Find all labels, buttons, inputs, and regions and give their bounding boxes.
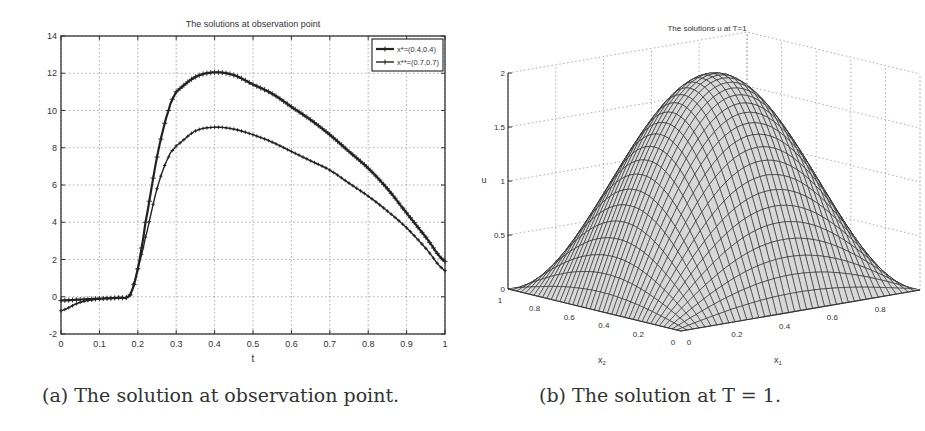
x2-tick-label: 0.2 — [633, 330, 645, 339]
x-tick-label: 0.9 — [400, 339, 413, 349]
legend-entry: x*=(0.4,0.4) — [397, 45, 436, 54]
z-tick-label: 1 — [501, 177, 506, 186]
x2-axis-label: x2 — [598, 355, 607, 366]
y-tick-label: 6 — [52, 180, 57, 190]
x-axis-label: t — [252, 353, 255, 364]
x1-tick-label: 0 — [687, 338, 692, 347]
caption-a: (a) The solution at observation point. — [42, 384, 399, 406]
x2-tick-label: 0 — [671, 338, 676, 347]
x1-tick-label: 0.6 — [827, 313, 839, 322]
x-tick-label: 0.2 — [132, 339, 145, 349]
z-tick-label: 2 — [501, 69, 506, 78]
x2-tick-label: 1 — [498, 296, 503, 305]
x1-axis-label: x1 — [774, 355, 783, 366]
y-tick-label: 10 — [47, 106, 57, 116]
x-tick-label: 0.8 — [362, 339, 375, 349]
z-axis-label: u — [481, 175, 486, 185]
x-tick-label: 0.4 — [208, 339, 221, 349]
surface-mesh — [508, 73, 920, 331]
x1-tick-label: 0.2 — [731, 330, 743, 339]
y-tick-label: 0 — [52, 292, 57, 302]
x2-tick-label: 0.4 — [598, 321, 610, 330]
chart-panel-b: The solutions u at T=100.511.52u00.20.40… — [462, 0, 925, 431]
x-tick-label: 0.3 — [170, 339, 183, 349]
x2-tick-label: 0.6 — [564, 313, 576, 322]
x2-tick-label: 0.8 — [529, 304, 541, 313]
x-tick-label: 0.1 — [93, 339, 106, 349]
grid — [61, 36, 445, 334]
chart-title: The solutions u at T=1 — [667, 24, 747, 33]
x-tick-label: 1 — [442, 339, 447, 349]
y-tick-label: 4 — [52, 217, 57, 227]
caption-b: (b) The solution at T = 1. — [539, 384, 781, 406]
y-tick-label: 14 — [47, 31, 57, 41]
x-tick-label: 0.6 — [285, 339, 298, 349]
chart-panel-a: The solutions at observation point00.10.… — [0, 0, 462, 431]
z-tick-label: 0.5 — [494, 231, 506, 240]
legend: x*=(0.4,0.4)x**=(0.7,0.7) — [372, 39, 443, 71]
line-chart: The solutions at observation point00.10.… — [0, 0, 462, 380]
x1-tick-label: 0.8 — [875, 305, 887, 314]
z-tick-label: 0 — [501, 285, 506, 294]
y-tick-label: -2 — [49, 329, 57, 339]
chart-title: The solutions at observation point — [186, 19, 321, 29]
y-tick-label: 8 — [52, 143, 57, 153]
z-tick-label: 1.5 — [494, 123, 506, 132]
legend-entry: x**=(0.7,0.7) — [397, 58, 439, 67]
y-tick-label: 2 — [52, 255, 57, 265]
x1-tick-label: 0.4 — [779, 322, 791, 331]
surface-chart: The solutions u at T=100.511.52u00.20.40… — [462, 0, 925, 380]
x-tick-label: 0 — [58, 339, 63, 349]
x-tick-label: 0.5 — [247, 339, 260, 349]
x-tick-label: 0.7 — [324, 339, 337, 349]
y-tick-label: 12 — [47, 68, 57, 78]
